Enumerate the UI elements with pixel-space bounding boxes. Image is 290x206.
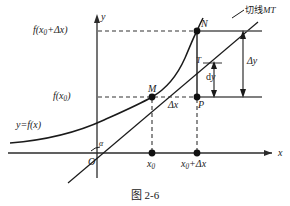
point-label-T: T <box>196 56 201 65</box>
tangent-line-label: 切线MT <box>245 6 276 15</box>
x-tick-x0dx-suffix: +Δx <box>189 158 206 169</box>
point-marker-M <box>149 94 156 101</box>
point-label-N: N <box>201 19 208 29</box>
curve-label: y=f(x) <box>16 120 41 130</box>
y-tick-upper-prefix: f(x <box>33 24 44 35</box>
y-tick-label-lower: f(x0) <box>53 91 70 103</box>
tangent-label-leader <box>232 10 244 18</box>
y-tick-label-upper: f(x0+Δx) <box>33 25 68 37</box>
point-label-P: P <box>198 100 204 110</box>
point-marker-x0dx <box>194 150 201 157</box>
x-tick-label-x0dx: x0+Δx <box>181 159 206 171</box>
delta-y-measure-arrow <box>240 30 246 98</box>
angle-alpha-label: α <box>99 140 103 148</box>
dy-label-var: y <box>211 71 215 82</box>
x-tick-x0-sub: 0 <box>151 163 155 171</box>
point-marker-N <box>194 28 201 35</box>
tangent-label-points: MT <box>263 5 276 15</box>
origin-label: O <box>88 157 95 167</box>
x-axis-label: x <box>278 148 282 158</box>
y-axis-label: y <box>101 12 105 22</box>
x-axis <box>8 150 272 156</box>
y-tick-lower-suffix: ) <box>67 90 70 101</box>
x-tick-label-x0: x0 <box>147 159 155 171</box>
point-label-M: M <box>148 84 156 94</box>
tangent-label-cjk: 切线 <box>245 5 263 15</box>
delta-y-label: Δy <box>247 56 257 66</box>
y-tick-upper-suffix: +Δx) <box>47 24 67 35</box>
y-tick-lower-prefix: f(x <box>53 90 64 101</box>
delta-x-label: Δx <box>168 100 178 110</box>
dy-label: dy <box>206 72 215 82</box>
figure-container: x y O α f(x0+Δx) f(x0) x0 x0+Δx y=f(x) 切… <box>0 0 290 206</box>
point-marker-x0 <box>149 150 156 157</box>
figure-caption: 图 2-6 <box>0 186 290 202</box>
